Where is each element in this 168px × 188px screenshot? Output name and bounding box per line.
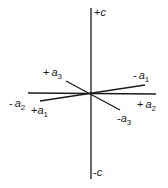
label-minus-a3: -a3 (117, 112, 132, 127)
label-minus-c: -c (93, 166, 103, 178)
label-plus-a1: +a1 (31, 104, 49, 119)
label-plus-a2: +a2 (137, 98, 157, 113)
label-minus-a2: -a2 (9, 97, 26, 112)
label-minus-a1: -a1 (133, 69, 150, 84)
hexagonal-axes-diagram: +c -c +a3 -a1 -a2 +a1 +a2 -a3 (0, 0, 168, 188)
label-plus-a3: +a3 (43, 66, 63, 81)
label-plus-c: +c (94, 6, 106, 18)
